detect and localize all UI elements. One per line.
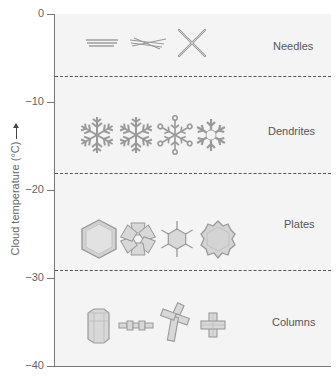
y-axis-title: Cloud temperature (°C) <box>9 126 21 256</box>
category-label-columns: Columns <box>272 316 315 328</box>
category-label-needles: Needles <box>273 40 313 52</box>
cross-column-icon <box>200 312 226 338</box>
bullet-rosette-icon <box>158 300 192 344</box>
sector-dendrite-icon <box>193 117 229 153</box>
hexagonal-plate-icon <box>79 218 119 260</box>
tick-0 <box>47 14 54 15</box>
crossed-needles-icon <box>175 27 209 59</box>
plate-with-arms-icon <box>158 220 196 258</box>
dendrite-icon <box>77 115 117 155</box>
tick-label-0: 0 <box>4 7 44 19</box>
tick-40 <box>47 366 54 367</box>
dendrite-icon <box>116 115 156 155</box>
arrow-up-icon <box>16 127 17 139</box>
needle-bundle-icon <box>128 34 168 52</box>
tick-label-30: −30 <box>4 271 44 283</box>
broad-branch-plate-icon <box>198 218 238 260</box>
boundary-line <box>55 76 331 77</box>
tick-label-10: −10 <box>4 95 44 107</box>
tick-label-40: −40 <box>4 359 44 371</box>
sector-plate-icon <box>120 221 156 257</box>
x-baseline <box>54 366 331 367</box>
category-label-dendrites: Dendrites <box>268 125 315 137</box>
category-label-plates: Plates <box>284 218 315 230</box>
needle-icon <box>84 36 120 50</box>
dendrite-knobbed-icon <box>155 115 195 155</box>
boundary-line <box>55 270 331 271</box>
hexagonal-column-icon <box>84 307 112 345</box>
tick-30 <box>47 278 54 279</box>
capped-column-icon <box>118 318 154 332</box>
y-axis-title-text: Cloud temperature (°C) <box>9 142 21 256</box>
tick-20 <box>47 190 54 191</box>
boundary-line <box>55 173 331 174</box>
y-axis-line <box>54 14 55 366</box>
tick-10 <box>47 102 54 103</box>
